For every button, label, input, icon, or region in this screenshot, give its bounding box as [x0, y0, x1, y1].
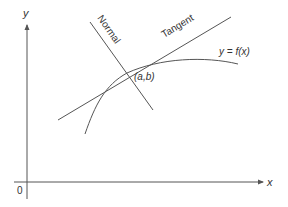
x-axis-label: x: [266, 176, 273, 188]
normal-line: [90, 22, 153, 110]
curve-label: y = f(x): [218, 46, 250, 57]
y-axis-label: y: [22, 7, 30, 19]
point-label: (a,b): [134, 71, 155, 82]
origin-label: 0: [17, 185, 23, 196]
tangent-label: Tangent: [159, 12, 195, 40]
tangent-normal-diagram: y x 0 y = f(x) (a,b) Tangent Normal: [0, 0, 288, 207]
normal-label: Normal: [95, 13, 122, 46]
tangent-line: [58, 17, 231, 120]
function-curve: [85, 59, 238, 134]
